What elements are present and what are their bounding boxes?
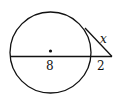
tangent-label: x [100, 32, 107, 46]
external-segment-label: 2 [97, 59, 105, 73]
circle-diagram: x 8 2 [0, 0, 113, 104]
center-point [49, 49, 52, 52]
internal-segment-label: 8 [46, 59, 54, 73]
